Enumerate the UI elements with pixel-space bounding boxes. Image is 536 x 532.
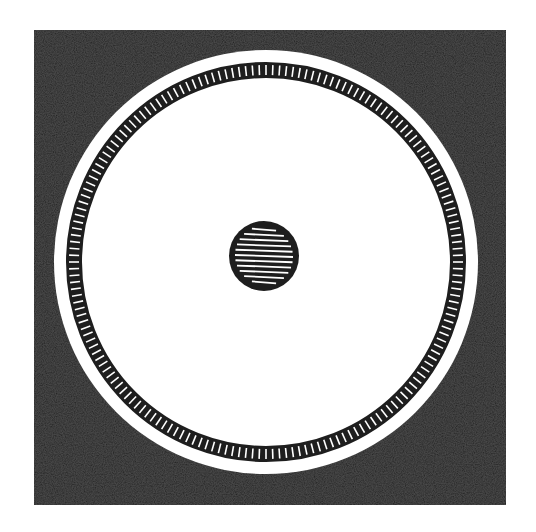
hatched-center-dot — [229, 221, 299, 291]
figure: Woodcut-style figure: dark square contai… — [0, 0, 536, 532]
figure-canvas — [0, 0, 536, 532]
